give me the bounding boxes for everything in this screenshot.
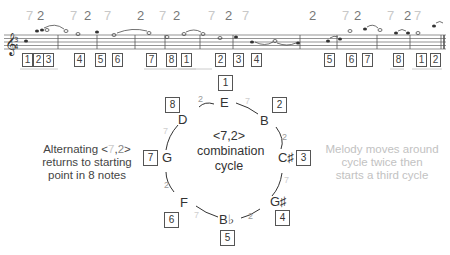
cycle-position-box: 7 — [143, 150, 158, 166]
left-annotation: Alternating <7,2> returns to starting po… — [32, 143, 142, 182]
cycle-title-line3: cycle — [197, 159, 261, 174]
cycle-note-g-sharp: G♯ — [270, 195, 287, 209]
cycle-position-box: 1 — [218, 75, 233, 91]
cycle-note-e: E — [220, 96, 229, 110]
cycle-note-c-sharp: C♯ — [278, 151, 294, 165]
cycle-note-b: B — [260, 114, 269, 128]
cycle-position-box: 2 — [272, 97, 287, 113]
arc-interval-label: 7 — [194, 211, 199, 220]
cycle-title-line2: combination — [197, 144, 261, 159]
left-annotation-line3: point in 8 notes — [32, 169, 142, 182]
cycle-position-box: 8 — [165, 97, 180, 113]
cycle-position-box: 3 — [296, 150, 311, 166]
arc-interval-label: 2 — [248, 212, 253, 221]
cycle-note-g: G — [162, 151, 172, 165]
left-annotation-line2: returns to starting — [32, 156, 142, 169]
cycle-note-f: F — [180, 196, 188, 210]
cycle-position-box: 5 — [220, 230, 235, 246]
cycle-note-b-flat: B♭ — [219, 213, 234, 227]
right-annotation-line1: Melody moves around — [318, 143, 446, 156]
arc-interval-label: 7 — [245, 97, 250, 106]
cycle-title: <7,2> combination cycle — [197, 129, 261, 174]
cycle-title-line1: <7,2> — [197, 129, 261, 144]
right-annotation-line2: cycle twice then — [318, 156, 446, 169]
arc-interval-label: 7 — [163, 127, 168, 136]
arc-interval-label: 7 — [284, 176, 289, 185]
left-annotation-line1: Alternating <7,2> — [32, 143, 142, 156]
right-annotation-line3: starts a third cycle — [318, 169, 446, 182]
arc-interval-label: 2 — [282, 133, 287, 142]
cycle-position-box: 4 — [275, 210, 290, 226]
arc-interval-label: 2 — [164, 181, 169, 190]
arc-interval-label: 2 — [198, 95, 203, 104]
cycle-position-box: 6 — [164, 212, 179, 228]
cycle-note-d: D — [178, 113, 187, 127]
right-annotation: Melody moves around cycle twice then sta… — [318, 143, 446, 182]
